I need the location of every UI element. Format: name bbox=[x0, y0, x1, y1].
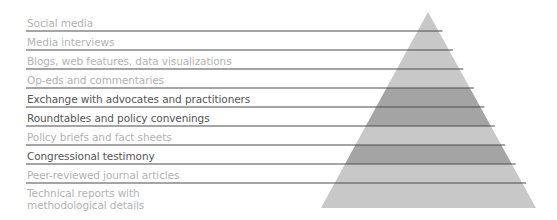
pyramid-band-10 bbox=[321, 183, 536, 208]
level-label-10: Technical reports with methodological de… bbox=[27, 187, 144, 211]
level-label-2: Media interviews bbox=[27, 36, 114, 48]
pyramid-diagram: Social media Media interviews Blogs, web… bbox=[0, 0, 557, 220]
pyramid-band-1 bbox=[418, 12, 439, 31]
pyramid-band-8 bbox=[345, 145, 512, 164]
level-label-8: Congressional testimony bbox=[27, 150, 155, 162]
pyramid-band-6 bbox=[366, 107, 491, 126]
level-label-5: Exchange with advocates and practitioner… bbox=[27, 93, 250, 105]
level-label-1: Social media bbox=[27, 17, 93, 29]
pyramid-band-4 bbox=[387, 69, 470, 88]
pyramid-band-5 bbox=[376, 88, 480, 107]
level-label-7: Policy briefs and fact sheets bbox=[27, 131, 172, 143]
level-label-9: Peer-reviewed journal articles bbox=[27, 169, 179, 181]
level-label-6: Roundtables and policy convenings bbox=[27, 112, 210, 124]
pyramid-band-9 bbox=[335, 164, 523, 183]
level-label-3: Blogs, web features, data visualizations bbox=[27, 55, 232, 67]
pyramid-band-2 bbox=[407, 31, 449, 50]
pyramid-band-7 bbox=[355, 126, 501, 145]
pyramid-band-3 bbox=[397, 50, 460, 69]
level-label-4: Op-eds and commentaries bbox=[27, 74, 164, 86]
